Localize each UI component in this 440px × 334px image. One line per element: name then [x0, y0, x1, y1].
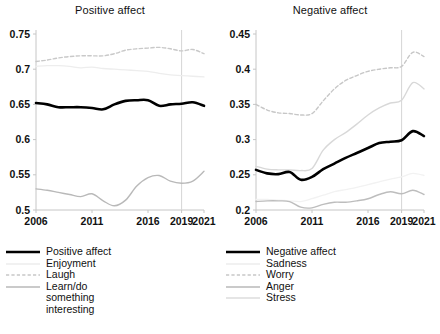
legend-item-label: Learn/do something interesting — [46, 281, 220, 316]
legend-line-swatch-icon — [220, 281, 266, 293]
series-line — [256, 131, 424, 180]
panel-title-left: Positive affect — [0, 4, 220, 16]
positive-affect-legend-item[interactable]: Enjoyment — [0, 258, 220, 270]
x-tick-label: 2011 — [81, 215, 104, 227]
panel-positive-affect: Positive affect 0.50.550.60.650.70.75200… — [0, 0, 220, 334]
y-tick-label: 0.4 — [235, 63, 250, 75]
y-tick-label: 0.65 — [10, 98, 31, 110]
y-tick-label: 0.75 — [10, 28, 31, 40]
legend-line-swatch-icon — [0, 258, 46, 270]
x-tick-label: 2006 — [244, 215, 268, 227]
legend-item-label: Stress — [266, 292, 440, 304]
series-line — [36, 100, 204, 110]
series-line — [256, 82, 424, 170]
positive-affect-legend-item[interactable]: Positive affect — [0, 246, 220, 258]
x-tick-label: 2011 — [301, 215, 324, 227]
y-tick-label: 0.55 — [10, 168, 31, 180]
x-tick-label: 2016 — [356, 215, 380, 227]
negative-affect-legend-item[interactable]: Negative affect — [220, 246, 440, 258]
series-line — [36, 47, 204, 61]
legend-line-swatch-icon — [0, 281, 46, 293]
legend-line-swatch-icon — [220, 269, 266, 281]
negative-affect-legend-item[interactable]: Anger — [220, 281, 440, 293]
y-tick-label: 0.7 — [15, 63, 30, 75]
series-line — [36, 171, 204, 206]
y-tick-label: 0.5 — [15, 204, 30, 216]
plot-area-negative-affect: 0.20.250.30.350.40.452006201120162019202… — [220, 22, 440, 244]
y-tick-label: 0.3 — [235, 133, 250, 145]
y-tick-label: 0.25 — [230, 168, 251, 180]
legend-line-swatch-icon — [220, 258, 266, 270]
legend-line-swatch-icon — [220, 292, 266, 304]
series-line — [36, 66, 204, 77]
plot-area-positive-affect: 0.50.550.60.650.70.752006201120162019202… — [0, 22, 220, 244]
panel-negative-affect: Negative affect 0.20.250.30.350.40.45200… — [220, 0, 440, 334]
legend-positive-affect: Positive affectEnjoymentLaughLearn/do so… — [0, 246, 220, 316]
y-tick-label: 0.45 — [230, 28, 251, 40]
y-tick-label: 0.6 — [15, 133, 30, 145]
positive-affect-legend-item[interactable]: Learn/do something interesting — [0, 281, 220, 316]
x-tick-label: 2021 — [412, 215, 436, 227]
panel-title-right: Negative affect — [220, 4, 440, 16]
positive-affect-legend-item[interactable]: Laugh — [0, 269, 220, 281]
legend-negative-affect: Negative affectSadnessWorryAngerStress — [220, 246, 440, 304]
legend-line-swatch-icon — [0, 246, 46, 258]
series-line — [256, 190, 424, 208]
negative-affect-legend-item[interactable]: Stress — [220, 292, 440, 304]
negative-affect-legend-item[interactable]: Sadness — [220, 258, 440, 270]
x-tick-label: 2019 — [390, 215, 414, 227]
x-tick-label: 2019 — [170, 215, 194, 227]
negative-affect-legend-item[interactable]: Worry — [220, 269, 440, 281]
x-tick-label: 2006 — [24, 215, 48, 227]
legend-item-label: Positive affect — [46, 246, 220, 258]
x-tick-label: 2016 — [136, 215, 160, 227]
legend-line-swatch-icon — [0, 269, 46, 281]
legend-item-label: Negative affect — [266, 246, 440, 258]
series-line — [256, 52, 424, 115]
legend-line-swatch-icon — [220, 246, 266, 258]
series-line — [256, 173, 424, 201]
y-tick-label: 0.2 — [235, 204, 250, 216]
y-tick-label: 0.35 — [230, 98, 251, 110]
x-tick-label: 2021 — [192, 215, 216, 227]
chart-figure: Positive affect 0.50.550.60.650.70.75200… — [0, 0, 440, 334]
